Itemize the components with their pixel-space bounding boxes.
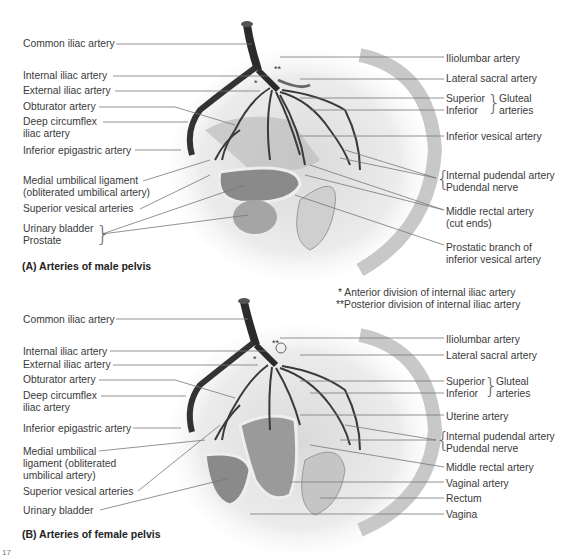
label-arteries-a: arteries [499, 105, 533, 117]
label-inferior-epigastric-artery-b: Inferior epigastric artery [23, 423, 131, 435]
label-lateral-sacral-artery-a: Lateral sacral artery [446, 73, 537, 85]
label-internal-pudendal-artery-b: Internal pudendal artery [446, 431, 555, 443]
label-external-iliac-artery-a: External iliac artery [23, 85, 111, 97]
label-internal-iliac-artery-b: Internal iliac artery [23, 346, 107, 358]
label-middle-rectal-artery-a: Middle rectal artery [446, 206, 534, 218]
label-medial-umbilical-ligament-a-2: (obliterated umbilical artery) [23, 187, 150, 199]
label-superior-vesical-arteries-a: Superior vesical arteries [23, 203, 133, 215]
label-deep-circumflex-a: Deep circumflex [23, 116, 97, 128]
caption-panel-b: (B) Arteries of female pelvis [22, 528, 161, 540]
label-iliolumbar-artery-a: Iliolumbar artery [446, 53, 520, 65]
svg-text:*: * [254, 78, 258, 88]
svg-text:**: ** [274, 64, 282, 74]
label-urinary-bladder-a: Urinary bladder [23, 223, 93, 235]
label-superior-gluteal-b: Superior [446, 376, 485, 388]
svg-text:*: * [253, 354, 257, 364]
label-prostate-a: Prostate [23, 235, 61, 247]
label-medial-umbilical-b-3: umbilical artery) [23, 470, 96, 482]
label-common-iliac-artery-a: Common iliac artery [23, 38, 115, 50]
page-fragment: 17 [2, 547, 11, 559]
brace-bladder-prostate: } [96, 223, 110, 245]
label-lateral-sacral-artery-b: Lateral sacral artery [446, 350, 537, 362]
label-internal-pudendal-artery-a: Internal pudendal artery [446, 170, 555, 182]
label-pudendal-nerve-b: Pudendal nerve [446, 443, 518, 455]
note-posterior-division: **Posterior division of internal iliac a… [336, 299, 520, 311]
label-common-iliac-artery-b: Common iliac artery [23, 314, 115, 326]
label-deep-circumflex-b: Deep circumflex [23, 390, 97, 402]
label-gluteal-a: Gluteal [499, 93, 532, 105]
label-gluteal-b: Gluteal [496, 376, 529, 388]
label-deep-circumflex-a-2: iliac artery [23, 128, 70, 140]
label-rectum-b: Rectum [446, 493, 481, 505]
label-external-iliac-artery-b: External iliac artery [23, 359, 111, 371]
label-middle-rectal-artery-b: Middle rectal artery [446, 462, 534, 474]
label-superior-gluteal-a: Superior [446, 93, 485, 105]
label-medial-umbilical-b-2: ligament (obliterated [23, 458, 116, 470]
label-uterine-artery-b: Uterine artery [446, 411, 508, 423]
label-deep-circumflex-b-2: iliac artery [23, 402, 70, 414]
label-cut-ends-a: (cut ends) [446, 218, 492, 230]
note-anterior-division: * Anterior division of internal iliac ar… [338, 287, 515, 299]
label-arteries-b: arteries [496, 388, 530, 400]
label-prostatic-branch-a-2: inferior vesical artery [446, 254, 541, 266]
caption-panel-a: (A) Arteries of male pelvis [22, 260, 151, 272]
label-prostatic-branch-a: Prostatic branch of [446, 242, 532, 254]
label-inferior-gluteal-b: Inferior [446, 388, 478, 400]
label-obturator-artery-b: Obturator artery [23, 374, 96, 386]
label-urinary-bladder-b: Urinary bladder [23, 505, 93, 517]
male-pelvis-illustration: * ** [170, 21, 435, 280]
label-internal-iliac-artery-a: Internal iliac artery [23, 70, 107, 82]
svg-text:**: ** [272, 338, 280, 348]
label-inferior-epigastric-artery-a: Inferior epigastric artery [23, 145, 131, 157]
label-inferior-vesical-artery-a: Inferior vesical artery [446, 131, 542, 143]
label-vaginal-artery-b: Vaginal artery [446, 478, 509, 490]
label-superior-vesical-arteries-b: Superior vesical arteries [23, 486, 133, 498]
label-vagina-b: Vagina [446, 509, 477, 521]
female-pelvis-illustration: * ** [170, 298, 435, 553]
label-inferior-gluteal-a: Inferior [446, 105, 478, 117]
label-pudendal-nerve-a: Pudendal nerve [446, 182, 518, 194]
label-obturator-artery-a: Obturator artery [23, 101, 96, 113]
label-medial-umbilical-b: Medial umbilical [23, 446, 96, 458]
label-iliolumbar-artery-b: Iliolumbar artery [446, 334, 520, 346]
label-medial-umbilical-ligament-a: Medial umbilical ligament [23, 175, 138, 187]
